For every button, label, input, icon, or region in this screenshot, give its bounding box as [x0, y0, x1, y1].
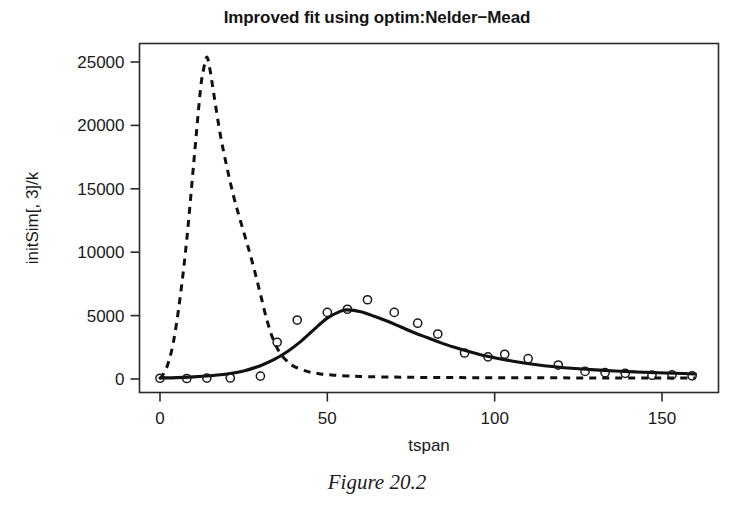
y-tick-label-20000: 20000 [77, 116, 124, 135]
y-tick-label-5000: 5000 [87, 307, 125, 326]
x-axis-tick-labels: 050100150 [155, 409, 676, 428]
x-axis-title: tspan [408, 436, 450, 455]
observation-point [256, 372, 264, 380]
x-axis-ticks [160, 393, 662, 402]
figure-container: Improved fit using optim:Nelder−Mead 050… [0, 0, 754, 512]
observation-point [390, 308, 398, 316]
observation-point [323, 308, 331, 316]
observation-point [414, 319, 422, 327]
series-layer [160, 57, 695, 379]
observation-point [293, 316, 301, 324]
y-axis-title: initSim[, 3]/k [23, 171, 42, 264]
series-dashed [160, 57, 695, 379]
x-tick-label-0: 0 [155, 409, 164, 428]
figure-caption: Figure 20.2 [0, 470, 754, 495]
observation-point [501, 350, 509, 358]
x-tick-label-50: 50 [318, 409, 337, 428]
y-axis-ticks [131, 62, 140, 379]
observation-point [363, 296, 371, 304]
x-tick-label-150: 150 [648, 409, 676, 428]
observation-point [434, 330, 442, 338]
observation-point [226, 374, 234, 382]
observation-point [524, 355, 532, 363]
series-solid [160, 310, 695, 378]
chart-plot-area: 050100150 0500010000150002000025000 tspa… [0, 0, 754, 470]
y-tick-label-0: 0 [115, 370, 124, 389]
plot-frame [140, 44, 719, 393]
y-tick-label-25000: 25000 [77, 53, 124, 72]
y-axis-tick-labels: 0500010000150002000025000 [77, 53, 124, 389]
x-tick-label-100: 100 [480, 409, 508, 428]
y-tick-label-10000: 10000 [77, 243, 124, 262]
y-tick-label-15000: 15000 [77, 180, 124, 199]
